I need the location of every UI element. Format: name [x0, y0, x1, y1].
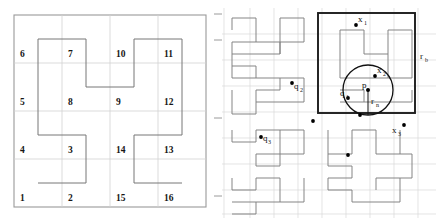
cell-label: 5	[20, 97, 25, 107]
cell-label: 2	[68, 193, 73, 203]
cell-label: 8	[68, 97, 73, 107]
label-x3: x	[392, 125, 397, 135]
label-q2-sub: 2	[300, 87, 303, 93]
cell-label: 12	[164, 97, 174, 107]
label-x2: x	[377, 65, 382, 75]
label-x3-sub: 3	[398, 131, 401, 137]
label-q1: q	[340, 88, 345, 98]
cell-label: 14	[116, 145, 126, 155]
cell-label: 15	[116, 193, 126, 203]
point-extra-3	[346, 153, 350, 157]
label-rb-sub: b	[425, 57, 428, 63]
label-rn: r	[371, 96, 374, 106]
cell-label: 16	[164, 193, 174, 203]
label-x2-sub: 2	[383, 71, 386, 77]
cell-label: 10	[116, 49, 126, 59]
point-extra-2	[358, 113, 362, 117]
cell-label: 7	[68, 49, 73, 59]
figure-container: 6 7 10 11 5 8 9 12 4 3 14 13 1 2 15 16	[0, 0, 438, 222]
figure-svg: 6 7 10 11 5 8 9 12 4 3 14 13 1 2 15 16	[0, 0, 438, 222]
label-x1-sub: 1	[364, 20, 367, 26]
cell-label: 9	[116, 97, 121, 107]
cell-label: 4	[20, 145, 25, 155]
cell-label: 1	[20, 193, 25, 203]
label-p: p	[362, 80, 367, 90]
label-q3-sub: 3	[268, 139, 271, 145]
label-x1: x	[358, 14, 363, 24]
point-x3	[402, 123, 406, 127]
cell-label: 6	[20, 49, 25, 59]
label-q2: q	[294, 81, 299, 91]
point-extra-1	[311, 119, 315, 123]
cell-label: 3	[68, 145, 73, 155]
label-rb: r	[420, 51, 423, 61]
label-rn-sub: n	[376, 102, 379, 108]
point-p	[366, 88, 370, 92]
cell-label: 13	[164, 145, 174, 155]
cell-label: 11	[164, 49, 173, 59]
label-q1-sub: 1	[346, 94, 349, 100]
